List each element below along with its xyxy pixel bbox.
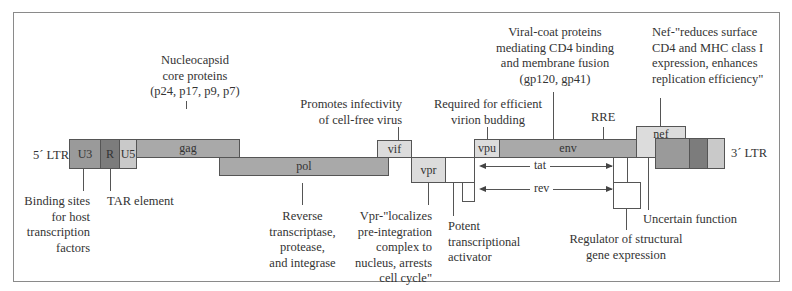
vpr-annotation-line: complex to (340, 240, 432, 256)
gene-tat-exon1 (445, 157, 475, 183)
nef-leader-line (660, 98, 661, 126)
segment-r: R (100, 139, 120, 169)
env-leader-line (553, 92, 554, 139)
env-label: env (559, 141, 576, 156)
env-annotation-line: and membrane fusion (490, 56, 620, 72)
segment-u5: U5 (119, 139, 137, 169)
tat-annotation-line: activator (448, 250, 520, 266)
pol-annotation-line: and integrase (260, 256, 345, 272)
vif-annotation: Promotes infectivity of cell-free virus (292, 97, 402, 128)
gag-annotation: Nucleocapsid core proteins (p24, p17, p9… (130, 53, 260, 100)
gene-vpu: vpu (474, 139, 500, 158)
rev-label: rev (530, 181, 553, 196)
vpr-leader-line (428, 183, 429, 205)
vpr-label: vpr (421, 163, 437, 178)
segment-u3: U3 (69, 139, 101, 169)
vpu-label: vpu (478, 141, 496, 156)
u3-leader-line (83, 169, 84, 191)
vpr-annotation-line: Vpr-"localizes (340, 209, 432, 225)
pol-label: pol (296, 159, 311, 174)
vif-leader-line (398, 127, 399, 140)
nef-annotation-line: Nef-"reduces surface (652, 25, 763, 41)
pol-annotation-line: protease, (260, 240, 345, 256)
tat-annotation-line: Potent (448, 219, 520, 235)
u3-annotation-line: transcription (20, 225, 90, 241)
u3-annotation-line: factors (20, 241, 90, 257)
u3-annotation-line: for host (20, 210, 90, 226)
tat-arrow-left-icon (479, 163, 486, 169)
tat-arrow-right-icon (606, 163, 613, 169)
rev-annotation-line: Regulator of structural (560, 232, 692, 248)
nef-lower-annotation: Uncertain function (643, 212, 737, 228)
gene-pol: pol (219, 157, 389, 176)
nef-annotation-line: CD4 and MHC class I (652, 41, 763, 57)
segment-r-3prime (689, 138, 708, 169)
u3-annotation-line: Binding sites (20, 194, 90, 210)
vpu-annotation-line: virion budding (425, 113, 551, 129)
nef-annotation: Nef-"reduces surface CD4 and MHC class I… (652, 25, 763, 87)
r-annotation: TAR element (107, 194, 174, 210)
rev-arrow-right-icon (606, 186, 613, 192)
nef-lower-leader-line (648, 158, 649, 210)
gene-rev-exon2 (613, 182, 641, 209)
env-annotation: Viral-coat proteins mediating CD4 bindin… (490, 25, 620, 87)
nef-annotation-line: expression, enhances (652, 56, 763, 72)
gene-vif: vif (377, 140, 412, 158)
vif-label: vif (388, 142, 401, 157)
gene-rev-exon1 (462, 182, 475, 202)
segment-u5-3prime (707, 138, 725, 169)
vpu-annotation: Required for efficient virion budding (425, 97, 551, 128)
vpr-annotation-line: pre-integration (340, 225, 432, 241)
tat-annotation: Potent transcriptional activator (448, 219, 520, 266)
vpr-annotation-line: cell cycle" (340, 271, 432, 287)
gene-gag: gag (136, 139, 240, 158)
pol-annotation-line: transcriptase, (260, 225, 345, 241)
r-leader-line (110, 169, 111, 191)
gene-vpr: vpr (411, 157, 446, 183)
nef-annotation-line: replication efficiency" (652, 72, 763, 88)
u5-label: U5 (121, 147, 136, 162)
vpu-annotation-line: Required for efficient (425, 97, 551, 113)
pol-annotation: Reverse transcriptase, protease, and int… (260, 209, 345, 271)
ltr-5-label: 5´ LTR (33, 148, 69, 164)
rre-label: RRE (591, 110, 615, 126)
vpr-annotation-line: nucleus, arrests (340, 256, 432, 272)
gene-env: env (499, 139, 637, 158)
env-annotation-line: mediating CD4 binding (490, 41, 620, 57)
segment-u3-3prime (655, 138, 690, 169)
rev-leader-line (626, 209, 627, 230)
vpu-leader-line (487, 127, 488, 139)
u3-annotation: Binding sites for host transcription fac… (20, 194, 90, 256)
r-label: R (106, 147, 114, 162)
vif-annotation-line: of cell-free virus (292, 113, 402, 129)
u3-label: U3 (78, 147, 93, 162)
pol-annotation-line: Reverse (260, 209, 345, 225)
rre-leader-line (603, 127, 604, 139)
vpr-annotation: Vpr-"localizes pre-integration complex t… (340, 209, 432, 287)
rev-annotation-line: gene expression (560, 248, 692, 264)
gag-annotation-line: core proteins (130, 69, 260, 85)
gag-annotation-line: Nucleocapsid (130, 53, 260, 69)
gag-leader-line (186, 101, 187, 109)
pol-leader-line (302, 183, 303, 205)
tat-annotation-line: transcriptional (448, 235, 520, 251)
rev-annotation: Regulator of structural gene expression (560, 232, 692, 263)
gag-label: gag (179, 141, 196, 156)
tat-leader-line (453, 183, 454, 216)
gag-annotation-line: (p24, p17, p9, p7) (130, 84, 260, 100)
gene-tat-exon2 (613, 157, 628, 183)
rev-arrow-left-icon (479, 186, 486, 192)
ltr-3-label: 3´ LTR (731, 146, 767, 162)
env-annotation-line: (gp120, gp41) (490, 72, 620, 88)
env-annotation-line: Viral-coat proteins (490, 25, 620, 41)
tat-label: tat (530, 158, 550, 173)
vif-annotation-line: Promotes infectivity (292, 97, 402, 113)
